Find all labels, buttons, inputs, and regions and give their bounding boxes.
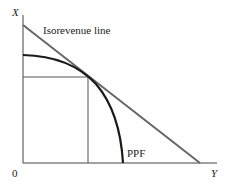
ppf-label: PPF (127, 147, 145, 159)
y-axis-label: X (12, 6, 19, 18)
x-axis-label: Y (211, 167, 217, 179)
isorevenue-line (23, 25, 200, 163)
origin-label: 0 (12, 167, 18, 179)
isorevenue-label: Isorevenue line (43, 24, 111, 36)
ppf-curve (23, 55, 123, 163)
diagram-canvas (0, 0, 231, 185)
